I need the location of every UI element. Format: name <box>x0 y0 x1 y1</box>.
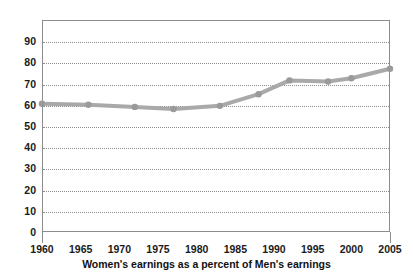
x-axis-label-1975: 1975 <box>146 244 169 255</box>
x-axis-label-2000: 2000 <box>340 244 363 255</box>
x-axis-tick-1960 <box>42 232 43 243</box>
data-point-1972 <box>132 104 138 110</box>
x-axis-label-1960: 1960 <box>30 244 53 255</box>
x-axis-label-1995: 1995 <box>301 244 324 255</box>
x-axis-label-1985: 1985 <box>224 244 247 255</box>
data-point-1960 <box>39 101 45 107</box>
data-point-1988 <box>255 91 261 97</box>
data-point-1977 <box>170 106 176 112</box>
x-axis-label-2005: 2005 <box>378 244 401 255</box>
data-point-1992 <box>286 77 292 83</box>
x-axis-label-1965: 1965 <box>69 244 92 255</box>
data-point-2000 <box>348 75 354 81</box>
data-point-1983 <box>217 103 223 109</box>
x-axis-tick-2005 <box>390 232 391 243</box>
data-point-1997 <box>325 78 331 84</box>
data-point-1966 <box>85 102 91 108</box>
x-axis: 1960196519701975198019851990199520002005 <box>0 236 413 252</box>
x-axis-label-1970: 1970 <box>108 244 131 255</box>
chart-caption: Women's earnings as a percent of Men's e… <box>0 258 413 271</box>
line-chart: 9080706050403020100 19601965197019751980… <box>0 0 413 277</box>
series-line-women-earnings <box>42 69 390 109</box>
data-point-2005 <box>387 66 393 72</box>
x-axis-label-1990: 1990 <box>262 244 285 255</box>
x-axis-label-1980: 1980 <box>185 244 208 255</box>
